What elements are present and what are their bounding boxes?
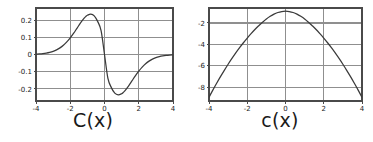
y-tick-label: -0.1 bbox=[18, 68, 32, 76]
y-tick-label: -4 bbox=[198, 41, 206, 49]
y-tick-label: -8 bbox=[198, 84, 205, 92]
figure-container: -4-20240.20.10-0.1-0.2 C(x) -4-2024-2-4-… bbox=[0, 0, 373, 142]
plot-panel-left: -4-20240.20.10-0.1-0.2 C(x) bbox=[0, 0, 186, 142]
y-tick-label: 0.1 bbox=[21, 34, 32, 42]
y-tick-label: 0.2 bbox=[21, 17, 32, 25]
y-tick-label: -0.2 bbox=[18, 86, 32, 94]
y-tick-label: 0 bbox=[28, 51, 32, 59]
plot-left-caption: C(x) bbox=[0, 108, 186, 132]
y-tick-label: -2 bbox=[198, 20, 205, 28]
y-tick-label: -6 bbox=[198, 62, 206, 70]
plot-right-caption: c(x) bbox=[187, 108, 373, 132]
plot-panel-right: -4-2024-2-4-6-8 c(x) bbox=[187, 0, 373, 142]
